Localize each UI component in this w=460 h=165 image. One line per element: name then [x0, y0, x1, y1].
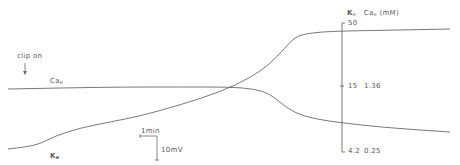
axis-tick-label-ca-025: 0.25 — [364, 148, 381, 155]
clip-on-arrow-icon — [23, 71, 27, 75]
axis-header-units: (mM) — [379, 9, 399, 17]
k-e-label-sub: e — [56, 154, 60, 160]
ca-e-label-main: Ca — [50, 77, 60, 85]
k-e-trace-label: Ke — [50, 153, 59, 160]
ca-e-label-sub: e — [60, 79, 63, 85]
k-e-trace — [8, 29, 450, 149]
axis-header-k-sub: e — [353, 11, 356, 17]
scale-time-label: 1min — [141, 128, 160, 135]
axis-tick-label-ca-136: 1.36 — [364, 83, 381, 90]
axis-header-ca-sub: e — [373, 11, 376, 17]
axis-tick-label-k-15: 15 — [348, 83, 358, 90]
ca-e-trace — [8, 87, 450, 132]
axis-header: Ke Cae (mM) — [347, 10, 399, 17]
scale-voltage-label: 10mV — [161, 147, 183, 154]
axis-tick-label-k-50: 50 — [348, 20, 358, 27]
ca-e-trace-label: Cae — [50, 78, 63, 85]
trace-chart — [0, 0, 460, 165]
clip-on-label: clip on — [17, 53, 42, 60]
axis-tick-label-k-42: 4.2 — [348, 148, 360, 155]
